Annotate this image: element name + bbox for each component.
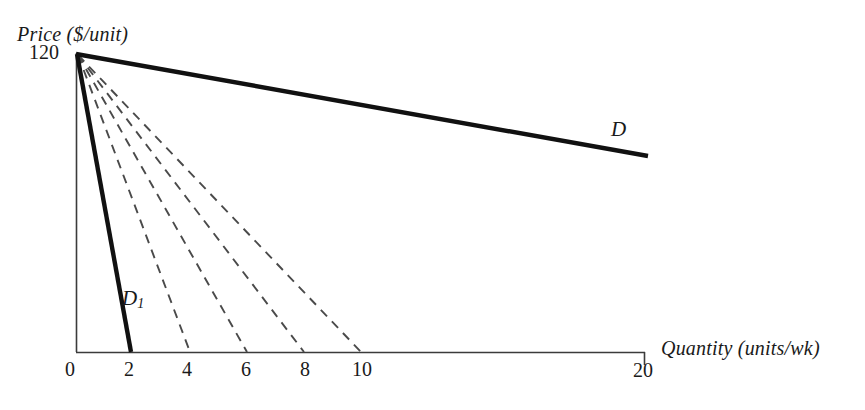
x-axis-title: Quantity (units/wk) (661, 338, 820, 358)
x-axis-tick-label-4: 4 (182, 359, 192, 379)
demand-curve-d1-label: D1 (122, 288, 144, 311)
demand-curve-d1-label-subscript: 1 (137, 296, 144, 311)
demand-curve-d-line (76, 54, 648, 156)
x-axis-tick-label-0: 0 (65, 359, 75, 379)
demand-curve-d1-label-text: D (122, 286, 137, 310)
y-axis-max-label: 120 (29, 42, 59, 62)
dashed-demand-curve-q10 (78, 55, 361, 352)
x-axis-tick-label-2: 2 (124, 359, 134, 379)
demand-curve-figure: Price ($/unit) 120 Quantity (units/wk) 0… (0, 0, 865, 410)
dashed-demand-curves (78, 55, 361, 352)
x-axis-tick-label-8: 8 (300, 359, 310, 379)
x-axis-tick-label-20: 20 (633, 360, 653, 380)
x-axis-tick-label-10: 10 (352, 359, 372, 379)
x-axis-tick-label-6: 6 (241, 359, 251, 379)
dashed-demand-curve-q8 (78, 55, 304, 352)
demand-curve-d-label: D (611, 119, 626, 140)
axis-lines (76, 53, 645, 365)
